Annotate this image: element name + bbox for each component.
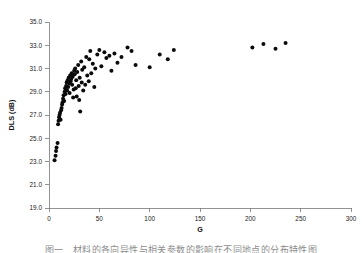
data-point [81, 89, 85, 93]
data-point [250, 46, 254, 50]
data-point [74, 78, 78, 82]
data-point [102, 50, 106, 54]
data-point [77, 84, 81, 88]
y-tick-label: 33.0 [30, 42, 43, 49]
data-point [55, 146, 59, 150]
data-point [79, 60, 83, 64]
data-point [54, 149, 58, 153]
data-point [77, 98, 81, 102]
data-point [56, 141, 60, 145]
data-point [112, 51, 116, 55]
data-point [71, 96, 75, 100]
data-point [261, 42, 265, 46]
y-tick-label: 23.0 [30, 158, 43, 165]
data-point [83, 83, 87, 87]
data-point [78, 76, 82, 80]
data-point [99, 64, 103, 68]
data-point [56, 122, 60, 126]
x-tick-label: 300 [346, 215, 357, 222]
data-point [92, 85, 96, 89]
data-point [53, 158, 57, 162]
data-point [70, 83, 74, 87]
data-point [62, 99, 66, 103]
data-point [89, 71, 93, 75]
figure-caption: 图一 材料的各向异性与相关参数的影响在不同地点的分布特性图 [0, 241, 362, 253]
data-point [91, 62, 95, 66]
data-point [78, 110, 82, 114]
data-point [126, 46, 130, 50]
data-point [66, 85, 70, 89]
data-point [115, 61, 119, 65]
data-point [93, 67, 97, 71]
data-point [75, 70, 79, 74]
data-point [88, 49, 92, 53]
y-tick-label: 19.0 [30, 204, 43, 211]
data-point [85, 73, 89, 77]
data-point [148, 65, 152, 69]
data-point [107, 54, 111, 58]
data-point [119, 55, 123, 59]
x-tick-label: 200 [245, 215, 256, 222]
y-tick-label: 25.0 [30, 135, 43, 142]
data-point [75, 94, 79, 98]
data-point [64, 92, 68, 96]
data-point [134, 63, 138, 67]
data-point [59, 118, 63, 122]
figure-container: 19.021.023.025.027.029.031.033.035.0 DLS… [0, 0, 362, 253]
data-point [73, 67, 77, 71]
x-tick-label: 250 [295, 215, 306, 222]
data-point [97, 48, 101, 52]
y-tick-label: 35.0 [30, 18, 43, 25]
data-point [109, 69, 113, 73]
x-tick-label: 50 [96, 215, 104, 222]
data-point [60, 106, 64, 110]
data-point [80, 80, 84, 84]
data-point [274, 47, 278, 51]
data-point [82, 65, 86, 69]
y-tick-label: 21.0 [30, 181, 43, 188]
figure-caption-text: 图一 材料的各向异性与相关参数的影响在不同地点的分布特性图 [0, 245, 362, 253]
data-point [158, 53, 162, 57]
data-point [95, 53, 99, 57]
y-tick-label: 27.0 [30, 111, 43, 118]
y-axis-title: DLS (dB) [7, 99, 16, 130]
scatter-plot: 19.021.023.025.027.029.031.033.035.0 DLS… [0, 0, 362, 253]
plot-background [0, 0, 362, 253]
data-point [166, 57, 170, 61]
data-point [130, 49, 134, 53]
data-point [87, 57, 91, 61]
x-tick-label: 100 [144, 215, 155, 222]
data-point [76, 63, 80, 67]
x-tick-label: 0 [47, 215, 51, 222]
y-tick-label: 29.0 [30, 88, 43, 95]
y-tick-label: 31.0 [30, 65, 43, 72]
data-point [172, 48, 176, 52]
data-point [284, 41, 288, 45]
x-axis-title: G [197, 225, 203, 234]
data-point [87, 79, 91, 83]
data-point [68, 91, 72, 95]
x-tick-label: 150 [195, 215, 206, 222]
data-point [54, 154, 58, 158]
